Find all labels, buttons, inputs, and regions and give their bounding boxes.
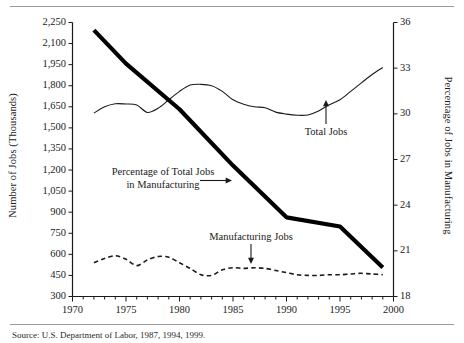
series-line-manufacturing-jobs: [94, 256, 383, 276]
tick-marks-group: [69, 23, 398, 302]
right-axis-tick-label: 27: [400, 153, 434, 164]
left-axis-tick-label: 1,800: [22, 79, 66, 90]
left-axis-tick-label: 1,650: [22, 100, 66, 111]
axes-group: [73, 23, 394, 297]
source-note: Source: U.S. Department of Labor, 1987, …: [12, 330, 205, 340]
left-axis-tick-label: 450: [22, 269, 66, 280]
left-axis-tick-label: 1,950: [22, 58, 66, 69]
x-axis-tick-label: 1990: [264, 304, 310, 315]
x-axis-tick-label: 1970: [50, 304, 96, 315]
left-axis-tick-label: 2,100: [22, 37, 66, 48]
manufacturing-jobs-annotation-arrow: [248, 244, 254, 264]
right-axis-tick-label: 33: [400, 62, 434, 73]
left-axis-tick-label: 600: [22, 248, 66, 259]
figure-container: 3004506007509001,0501,2001,3501,5001,650…: [0, 0, 464, 343]
percentage-annotation-line1: Percentage of Total Jobs: [88, 166, 238, 179]
left-axis-tick-label: 2,250: [22, 16, 66, 27]
right-axis-title: Percentage of Jobs in Manufacturing: [443, 56, 454, 256]
left-axis-tick-label: 1,500: [22, 121, 66, 132]
x-axis-tick-label: 1995: [317, 304, 363, 315]
left-axis-tick-label: 900: [22, 206, 66, 217]
manufacturing-jobs-annotation: Manufacturing Jobs: [196, 231, 306, 244]
left-axis-tick-label: 300: [22, 290, 66, 301]
right-axis-tick-label: 36: [400, 16, 434, 27]
x-axis-tick-label: 1975: [103, 304, 149, 315]
x-axis-tick-label: 1985: [210, 304, 256, 315]
left-axis-tick-label: 1,050: [22, 185, 66, 196]
percentage-annotation-line2: in Manufacturing: [88, 179, 238, 192]
right-axis-tick-label: 30: [400, 107, 434, 118]
total-jobs-annotation-arrow: [323, 100, 329, 124]
x-axis-tick-label: 2000: [371, 304, 417, 315]
right-axis-tick-label: 18: [400, 290, 434, 301]
x-axis-tick-label: 1980: [157, 304, 203, 315]
right-axis-tick-label: 24: [400, 199, 434, 210]
left-axis-tick-label: 1,350: [22, 142, 66, 153]
left-axis-tick-label: 1,200: [22, 164, 66, 175]
total-jobs-annotation: Total Jobs: [291, 126, 361, 139]
left-axis-title: Number of Jobs (Thousands): [7, 56, 18, 256]
percentage-annotation: Percentage of Total Jobs in Manufacturin…: [88, 166, 238, 191]
left-axis-tick-label: 750: [22, 227, 66, 238]
right-axis-tick-label: 21: [400, 244, 434, 255]
